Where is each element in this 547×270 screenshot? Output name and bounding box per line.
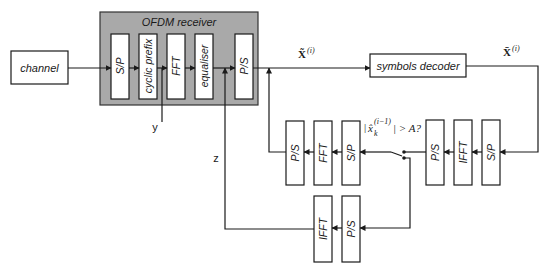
mid-sp-block: S/P: [342, 121, 360, 185]
svg-text:S/P: S/P: [114, 58, 126, 75]
svg-text:X̃: X̃: [298, 48, 306, 60]
svg-text:equaliser: equaliser: [198, 44, 210, 87]
rx-equaliser-block: equaliser: [195, 34, 213, 99]
mid-fft-block: FFT: [314, 121, 332, 185]
x-bar-label: X̄ (i): [503, 44, 520, 58]
bot-ifft-block: IFFT: [314, 196, 332, 262]
mid-ps-block: P/S: [286, 121, 304, 185]
svg-text:OFDM receiver: OFDM receiver: [142, 16, 218, 28]
decoder-feedback-line: [466, 66, 538, 152]
fb-sp-block: S/P: [482, 120, 500, 185]
fb-ifft-block: IFFT: [454, 120, 472, 185]
svg-text:P/S: P/S: [289, 145, 301, 162]
svg-text:(i): (i): [307, 46, 315, 55]
svg-text:z: z: [213, 152, 219, 164]
svg-text:channel: channel: [20, 62, 59, 74]
svg-text:symbols decoder: symbols decoder: [376, 60, 460, 72]
svg-text:P/S: P/S: [238, 58, 250, 75]
threshold-switch: [360, 150, 426, 228]
svg-text:P/S: P/S: [429, 144, 441, 161]
threshold-condition-label: | x̂ k (i−1) | > A?: [364, 117, 421, 138]
mid-feedback-line: [269, 68, 286, 152]
svg-text:x̂: x̂: [367, 122, 373, 134]
svg-text:cyclic prefix: cyclic prefix: [142, 38, 154, 93]
fb-ps-block: P/S: [426, 120, 444, 185]
svg-text:P/S: P/S: [345, 221, 357, 238]
svg-text:IFFT: IFFT: [457, 140, 469, 164]
svg-text:y: y: [152, 121, 158, 133]
svg-text:X̄: X̄: [503, 46, 511, 58]
svg-text:S/P: S/P: [485, 144, 497, 161]
svg-text:FFT: FFT: [170, 55, 182, 76]
rx-fft-block: FFT: [167, 34, 185, 99]
ofdm-receiver-diagram: channel OFDM receiver S/P cyclic prefix …: [0, 0, 547, 270]
rx-sp-block: S/P: [111, 34, 129, 99]
symbols-decoder-block: symbols decoder: [370, 54, 466, 77]
bot-ps-block: P/S: [342, 196, 360, 262]
svg-text:(i): (i): [512, 44, 520, 53]
svg-text:S/P: S/P: [345, 145, 357, 162]
x-tilde-label: X̃ (i): [298, 46, 315, 60]
svg-text:FFT: FFT: [317, 142, 329, 163]
channel-block: channel: [11, 51, 68, 84]
rx-ps-block: P/S: [235, 34, 253, 99]
rx-cyclic-prefix-block: cyclic prefix: [139, 34, 157, 99]
svg-text:|: |: [364, 121, 366, 133]
svg-text:| > A?: | > A?: [393, 122, 421, 134]
svg-text:k: k: [374, 129, 378, 138]
svg-text:(i−1): (i−1): [374, 117, 391, 126]
svg-text:IFFT: IFFT: [317, 216, 329, 240]
